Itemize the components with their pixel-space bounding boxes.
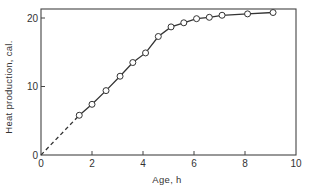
data-point-marker bbox=[130, 60, 136, 66]
x-tick-label: 0 bbox=[38, 158, 44, 169]
data-point-marker bbox=[245, 11, 251, 17]
y-axis-label: Heat production, cal. bbox=[3, 40, 14, 133]
data-point-marker bbox=[194, 16, 200, 22]
axis-ticks: 024681001020 bbox=[27, 13, 302, 170]
data-point-marker bbox=[117, 73, 123, 79]
heat-production-chart: 024681001020 Age, h Heat production, cal… bbox=[0, 0, 316, 189]
x-axis-label: Age, h bbox=[152, 174, 181, 185]
data-point-marker bbox=[181, 20, 187, 26]
data-point-marker bbox=[270, 10, 276, 16]
y-tick-label: 0 bbox=[32, 150, 38, 161]
data-point-marker bbox=[219, 12, 225, 18]
plot-border bbox=[41, 9, 296, 155]
series-line bbox=[79, 13, 273, 116]
x-tick-label: 4 bbox=[140, 158, 146, 169]
data-point-marker bbox=[155, 33, 161, 39]
x-tick-label: 10 bbox=[290, 158, 302, 169]
data-point-marker bbox=[89, 101, 95, 107]
x-tick-label: 6 bbox=[191, 158, 197, 169]
y-tick-label: 20 bbox=[27, 13, 39, 24]
y-tick-label: 10 bbox=[27, 81, 39, 92]
x-tick-label: 8 bbox=[242, 158, 248, 169]
x-tick-label: 2 bbox=[89, 158, 95, 169]
extrapolation-dashed-line bbox=[41, 115, 79, 155]
plot-frame bbox=[41, 9, 296, 155]
data-point-marker bbox=[168, 24, 174, 30]
data-point-marker bbox=[76, 112, 82, 118]
data-series bbox=[41, 10, 276, 155]
data-point-marker bbox=[103, 88, 109, 94]
data-point-marker bbox=[206, 14, 212, 20]
data-point-marker bbox=[143, 50, 149, 56]
